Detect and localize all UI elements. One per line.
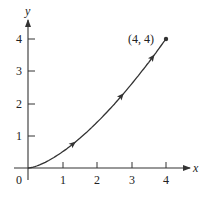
y-axis-label: y <box>24 4 31 18</box>
y-tick-label: 2 <box>16 97 22 111</box>
x-ticks <box>63 162 166 168</box>
x-axis-label: x <box>192 161 199 175</box>
y-tick-label: 1 <box>16 129 22 143</box>
x-tick-label: 2 <box>94 173 100 187</box>
curve-path <box>28 39 166 168</box>
direction-arrows <box>69 53 157 149</box>
y-tick-label: 3 <box>16 64 22 78</box>
x-tick-label: 3 <box>129 173 135 187</box>
endpoint-dot <box>164 37 168 41</box>
x-tick-label: 4 <box>163 173 169 187</box>
endpoint-label: (4, 4) <box>128 32 154 46</box>
y-ticks <box>28 39 35 136</box>
x-tick-label: 1 <box>60 173 66 187</box>
y-tick-label: 4 <box>16 32 22 46</box>
origin-label: 0 <box>16 173 22 187</box>
chart: x y 1 2 3 4 0 1 2 3 4 (4, 4) <box>0 0 202 198</box>
